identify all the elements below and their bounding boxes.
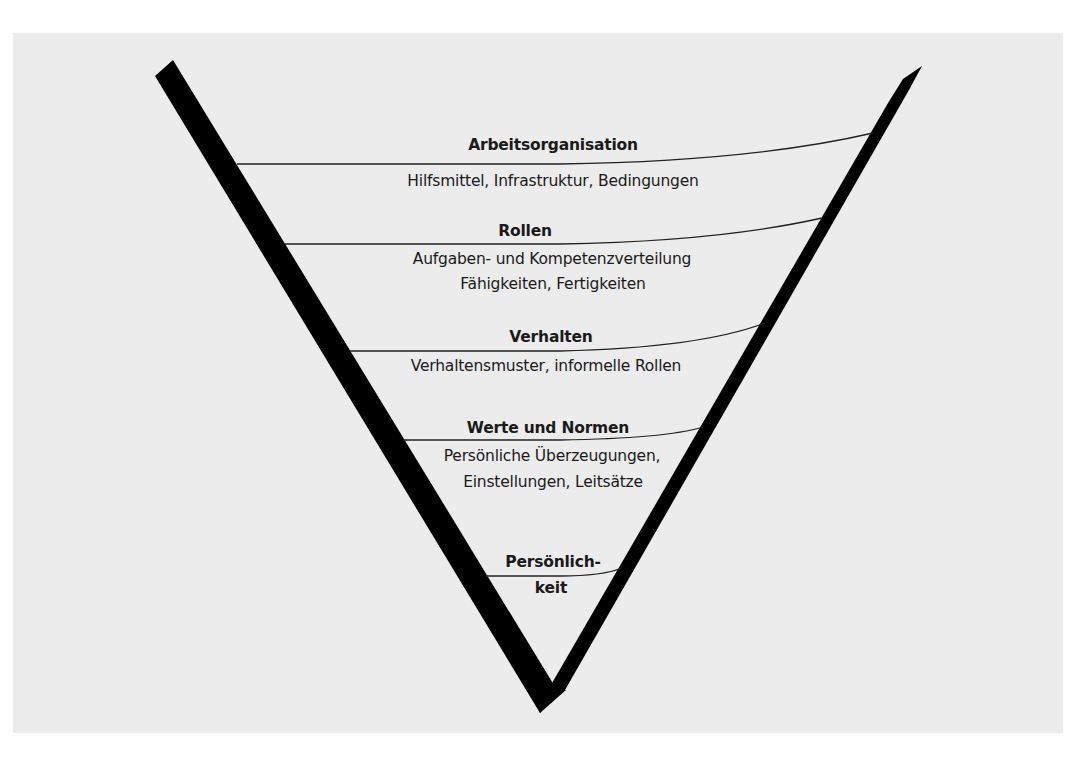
- level-title-arbeitsorganisation: Arbeitsorganisation: [468, 134, 638, 156]
- level-description-werte-und-normen-line2: Einstellungen, Leitsätze: [463, 471, 643, 493]
- level-description-werte-und-normen-line1: Persönliche Überzeugungen,: [444, 445, 661, 467]
- v-funnel-graphic: [0, 0, 1077, 763]
- level-title-werte-und-normen: Werte und Normen: [467, 417, 629, 439]
- level-title-persoenlichkeit: Persönlich-: [505, 551, 601, 573]
- level-description-rollen-line1: Aufgaben- und Kompetenzverteilung: [413, 248, 691, 270]
- divider-line-rollen: [285, 218, 822, 244]
- level-title-persoenlichkeit-cont: keit: [535, 577, 567, 599]
- funnel-right-bar: [548, 66, 922, 694]
- level-title-rollen: Rollen: [498, 220, 552, 242]
- level-description-verhalten: Verhaltensmuster, informelle Rollen: [411, 355, 681, 377]
- level-title-verhalten: Verhalten: [509, 326, 592, 348]
- funnel-left-bar: [155, 60, 557, 713]
- level-description-rollen-line2: Fähigkeiten, Fertigkeiten: [460, 273, 645, 295]
- level-description-arbeitsorganisation: Hilfsmittel, Infrastruktur, Bedingungen: [407, 170, 698, 192]
